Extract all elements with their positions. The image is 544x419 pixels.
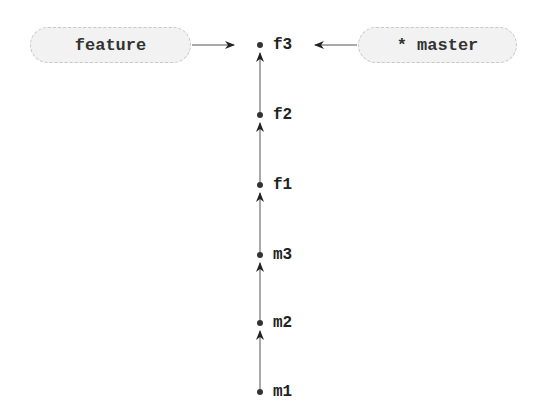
commit-m1: m1	[273, 384, 292, 400]
commit-f2: f2	[273, 107, 292, 123]
branch-master[interactable]: * master	[358, 27, 517, 63]
branch-master-label: * master	[397, 36, 479, 55]
branch-feature[interactable]: feature	[30, 27, 191, 63]
commit-m3: m3	[273, 247, 292, 263]
commit-f3: f3	[273, 37, 292, 53]
commit-f1: f1	[273, 177, 292, 193]
branch-feature-label: feature	[75, 36, 146, 55]
commit-m2: m2	[273, 315, 292, 331]
